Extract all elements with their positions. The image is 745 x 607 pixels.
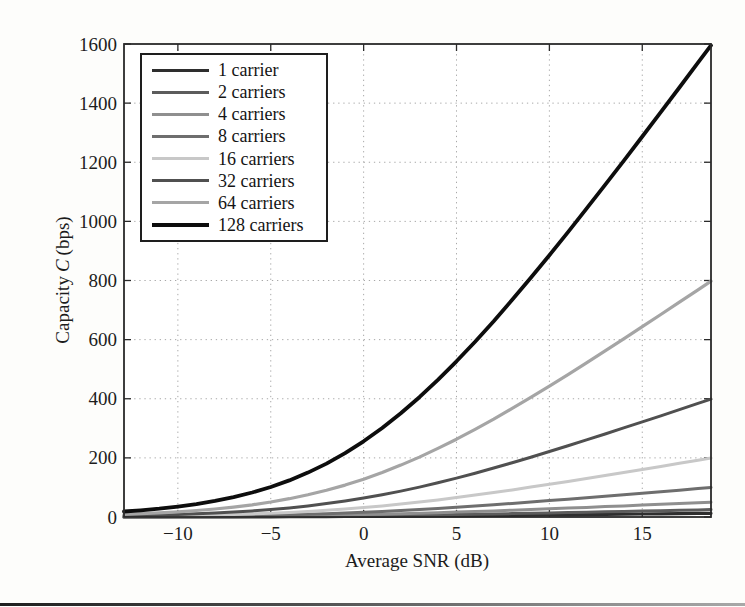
legend-item-label: 2 carriers — [218, 83, 285, 101]
legend-line-sample — [152, 69, 209, 72]
legend-line-sample — [152, 223, 209, 227]
legend-item: 64 carriers — [152, 194, 324, 212]
x-tick-label: 5 — [452, 523, 462, 544]
scanned-figure-page: −10−505101502004006008001000120014001600… — [0, 0, 745, 607]
legend-item-label: 8 carriers — [218, 127, 285, 145]
legend-item-label: 4 carriers — [218, 105, 285, 123]
legend-line-sample — [152, 157, 209, 160]
y-tick-label: 200 — [89, 447, 118, 468]
y-tick-label: 1400 — [79, 93, 117, 114]
y-axis-title-prefix: Capacity — [52, 276, 73, 344]
legend-item: 2 carriers — [152, 83, 324, 101]
legend-item: 16 carriers — [152, 150, 324, 168]
y-axis-title-variable: C — [52, 259, 73, 272]
x-axis-title: Average SNR (dB) — [345, 550, 489, 572]
legend-item-label: 32 carriers — [218, 172, 294, 190]
legend-line-sample — [152, 201, 209, 204]
x-tick-label: 10 — [540, 523, 559, 544]
legend-item-label: 64 carriers — [218, 194, 294, 212]
x-tick-label: 15 — [633, 523, 652, 544]
legend-line-sample — [152, 135, 209, 138]
x-tick-label: −10 — [163, 523, 193, 544]
y-axis-title: CapacityC(bps) — [52, 216, 74, 343]
y-tick-label: 400 — [89, 388, 118, 409]
x-tick-label: 0 — [359, 523, 369, 544]
y-tick-label: 1200 — [79, 152, 117, 173]
legend-item-label: 1 carrier — [218, 61, 278, 79]
legend-item-label: 128 carriers — [218, 216, 303, 234]
y-tick-label: 1600 — [79, 34, 117, 55]
legend-item: 4 carriers — [152, 105, 324, 123]
y-tick-label: 800 — [89, 270, 118, 291]
legend-line-sample — [152, 91, 209, 94]
legend-item: 128 carriers — [152, 216, 324, 234]
page-bottom-rule — [0, 603, 745, 606]
y-axis-title-suffix: (bps) — [52, 216, 73, 255]
legend-item: 32 carriers — [152, 172, 324, 190]
legend-line-sample — [152, 179, 209, 182]
legend-item: 8 carriers — [152, 127, 324, 145]
capacity-vs-snr-chart: −10−505101502004006008001000120014001600 — [0, 0, 745, 607]
y-tick-label: 1000 — [79, 211, 117, 232]
legend-item: 1 carrier — [152, 61, 324, 79]
y-tick-label: 0 — [108, 507, 118, 528]
y-tick-label: 600 — [89, 329, 118, 350]
legend-item-label: 16 carriers — [218, 150, 294, 168]
legend: 1 carrier2 carriers4 carriers8 carriers1… — [140, 53, 328, 242]
legend-line-sample — [152, 113, 209, 116]
x-tick-label: −5 — [261, 523, 281, 544]
